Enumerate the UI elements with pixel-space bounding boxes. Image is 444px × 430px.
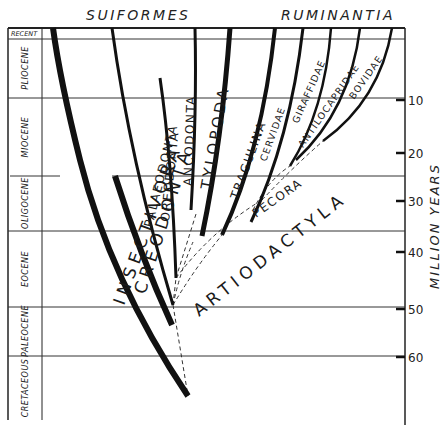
tick-30: 30 [408,195,423,209]
title-suiformes: SUIFORMES [86,7,190,23]
tick-40: 40 [408,246,423,260]
tick-50: 50 [408,303,423,317]
taxon-labels: INSECTIVORA CREODONTA PALAEODONTA OREODO… [109,53,385,320]
period-recent: RECENT [11,30,38,38]
label-pecora: PECORA [250,176,305,221]
period-eocene: EOCENE [21,251,30,287]
title-ruminantia: RUMINANTIA [281,7,395,23]
label-ancodonta: ANCODONTA [181,95,198,186]
period-paleocene: PALEOCENE [21,305,30,357]
tick-20: 20 [408,147,423,161]
period-labels: RECENT PLIOCENE MIOCENE OLIGOCENE EOCENE… [11,30,38,417]
time-axis: 10 20 30 40 50 60 MILLION YEARS [396,94,442,365]
period-pliocene: PLIOCENE [21,46,30,90]
period-cretaceous: CRETACEOUS [21,359,30,418]
axis-label-million-years: MILLION YEARS [427,163,442,289]
period-miocene: MIOCENE [21,116,30,157]
tick-10: 10 [408,94,423,108]
tick-60: 60 [408,351,423,365]
period-oligocene: OLIGOCENE [21,177,30,229]
phylogeny-diagram: SUIFORMES RUMINANTIA RECENT PLIOCENE MIO… [0,0,444,430]
